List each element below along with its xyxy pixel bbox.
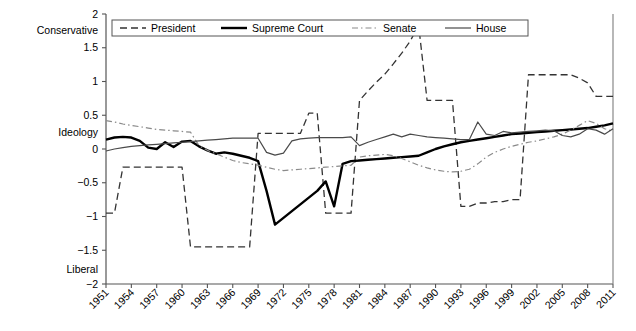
y-tick-label: −1.5 [77,244,98,256]
y-tick-label: −0.5 [77,176,98,188]
legend-label-senate: Senate [383,22,416,34]
legend-label-president: President [151,22,195,34]
chart-container: 21.510.50−0.5−1−1.5−2 195119541957196019… [0,0,636,331]
chart-legend: PresidentSupreme CourtSenateHouse [112,20,528,36]
y-tick-label: 1.5 [83,41,98,53]
y-axis-mid-label: Ideology [58,126,98,138]
y-tick-label: 2 [92,8,98,20]
legend-label-supreme-court: Supreme Court [252,22,323,34]
y-tick-label: 0.5 [83,109,98,121]
ideology-line-chart: 21.510.50−0.5−1−1.5−2 195119541957196019… [0,0,636,331]
y-tick-label: 0 [92,143,98,155]
y-tick-label: −1 [86,210,98,222]
y-axis-bottom-label: Liberal [66,263,98,275]
legend-label-house: House [476,22,507,34]
y-axis-top-label: Conservative [37,24,98,36]
y-tick-label: 1 [92,75,98,87]
y-tick-label: −2 [86,278,98,290]
